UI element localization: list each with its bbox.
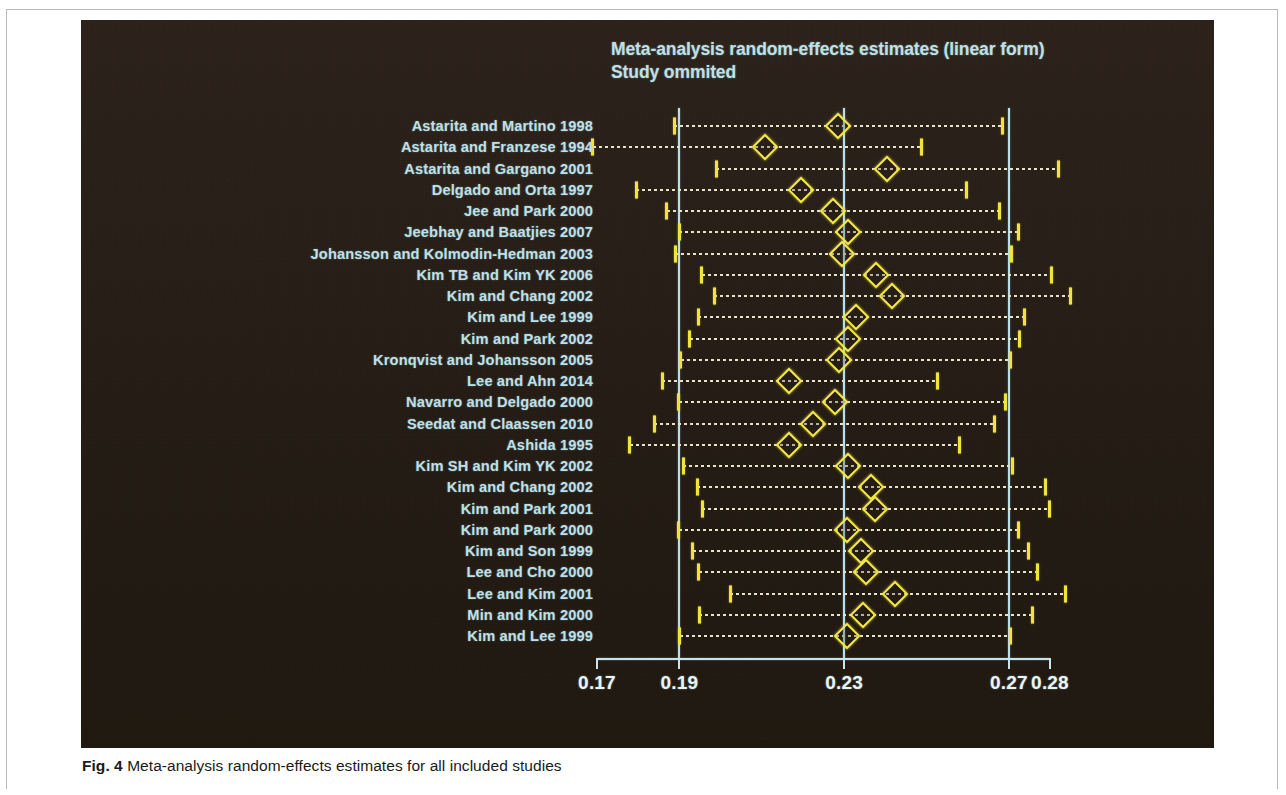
ci-upper-cap <box>1027 543 1030 560</box>
ci-upper-cap <box>993 415 996 432</box>
figure-caption-text: Meta-analysis random-effects estimates f… <box>127 757 561 774</box>
plot-title-line1: Meta-analysis random-effects estimates (… <box>611 39 1044 59</box>
ci-upper-cap <box>1057 160 1060 177</box>
ci-upper-cap <box>1069 288 1072 305</box>
page-border-top <box>6 9 1278 10</box>
estimate-marker <box>819 198 846 225</box>
ci-lower-cap <box>697 564 700 581</box>
ci-lower-cap <box>697 309 700 326</box>
figure-caption: Fig. 4 Meta-analysis random-effects esti… <box>82 757 562 775</box>
ci-upper-cap <box>1031 606 1034 623</box>
study-label: Kim SH and Kim YK 2002 <box>81 458 593 474</box>
ci-upper-cap <box>1009 628 1012 645</box>
ci-lower-cap <box>679 351 682 368</box>
study-label: Jeebhay and Baatjies 2007 <box>81 224 593 240</box>
x-axis-tick-label: 0.23 <box>825 672 863 694</box>
ci-lower-cap <box>715 160 718 177</box>
study-label: Delgado and Orta 1997 <box>81 182 593 198</box>
ci-lower-cap <box>661 373 664 390</box>
figure-page: Meta-analysis random-effects estimates (… <box>0 0 1286 795</box>
ci-lower-cap <box>677 521 680 538</box>
study-label: Lee and Ahn 2014 <box>81 373 593 389</box>
x-axis-tick <box>843 658 845 669</box>
study-label: Astarita and Franzese 1994 <box>81 139 593 155</box>
ci-lower-cap <box>682 458 685 475</box>
study-label: Kim TB and Kim YK 2006 <box>81 267 593 283</box>
ci-lower-cap <box>698 606 701 623</box>
ci-upper-cap <box>1009 351 1012 368</box>
reference-line <box>1008 108 1010 658</box>
ci-upper-cap <box>1036 564 1039 581</box>
study-label: Johansson and Kolmodin-Hedman 2003 <box>81 246 593 262</box>
estimate-marker <box>751 134 778 161</box>
study-label: Min and Kim 2000 <box>81 607 593 623</box>
x-axis-tick <box>596 658 598 669</box>
ci-upper-cap <box>1023 309 1026 326</box>
estimate-marker <box>788 176 815 203</box>
ci-upper-cap <box>1011 458 1014 475</box>
estimate-marker <box>775 431 802 458</box>
study-label: Kim and Park 2002 <box>81 331 593 347</box>
x-axis-tick-label: 0.28 <box>1031 672 1069 694</box>
study-label: Seedat and Claassen 2010 <box>81 416 593 432</box>
study-label: Ashida 1995 <box>81 437 593 453</box>
x-axis-tick-label: 0.17 <box>578 672 616 694</box>
x-axis-tick-label: 0.19 <box>660 672 698 694</box>
estimate-marker <box>800 410 827 437</box>
ci-upper-cap <box>1048 500 1051 517</box>
ci-upper-cap <box>1010 245 1013 262</box>
ci-upper-cap <box>1017 521 1020 538</box>
study-label: Kim and Lee 1999 <box>81 628 593 644</box>
estimate-marker <box>834 516 861 543</box>
ci-lower-cap <box>701 500 704 517</box>
estimate-marker <box>835 453 862 480</box>
estimate-marker <box>858 474 885 501</box>
ci-upper-cap <box>1004 394 1007 411</box>
estimate-marker <box>873 155 900 182</box>
estimate-marker <box>835 219 862 246</box>
x-axis-tick <box>678 658 680 669</box>
ci-upper-cap <box>1050 266 1053 283</box>
ci-lower-cap <box>653 415 656 432</box>
forest-plot-panel: Meta-analysis random-effects estimates (… <box>81 20 1214 748</box>
study-label: Kim and Son 1999 <box>81 543 593 559</box>
estimate-marker <box>834 623 861 650</box>
study-label: Kim and Chang 2002 <box>81 479 593 495</box>
study-label: Astarita and Martino 1998 <box>81 118 593 134</box>
study-label: Kim and Park 2001 <box>81 501 593 517</box>
ci-lower-cap <box>628 436 631 453</box>
study-label: Navarro and Delgado 2000 <box>81 394 593 410</box>
estimate-marker <box>853 559 880 586</box>
estimate-marker <box>829 240 856 267</box>
estimate-marker <box>861 495 888 522</box>
ci-lower-cap <box>688 330 691 347</box>
ci-lower-cap <box>674 245 677 262</box>
estimate-marker <box>881 580 908 607</box>
study-label: Astarita and Gargano 2001 <box>81 161 593 177</box>
estimate-marker <box>878 283 905 310</box>
ci-lower-cap <box>635 181 638 198</box>
page-border-left <box>6 9 7 789</box>
ci-lower-cap <box>713 288 716 305</box>
study-label: Lee and Kim 2001 <box>81 586 593 602</box>
study-label: Kronqvist and Johansson 2005 <box>81 352 593 368</box>
ci-upper-cap <box>936 373 939 390</box>
ci-upper-cap <box>1017 224 1020 241</box>
x-axis-line <box>597 658 1050 660</box>
ci-lower-cap <box>677 394 680 411</box>
study-label: Lee and Cho 2000 <box>81 564 593 580</box>
plot-title-line2: Study ommited <box>611 61 1044 84</box>
ci-lower-cap <box>673 118 676 135</box>
study-label: Kim and Chang 2002 <box>81 288 593 304</box>
ci-lower-cap <box>696 479 699 496</box>
ci-lower-cap <box>678 224 681 241</box>
ci-lower-cap <box>678 628 681 645</box>
plot-title: Meta-analysis random-effects estimates (… <box>611 38 1044 85</box>
ci-upper-cap <box>920 139 923 156</box>
study-label: Kim and Lee 1999 <box>81 309 593 325</box>
ci-upper-cap <box>998 203 1001 220</box>
ci-upper-cap <box>1044 479 1047 496</box>
ci-upper-cap <box>965 181 968 198</box>
x-axis-tick <box>1008 658 1010 669</box>
estimate-marker <box>825 113 852 140</box>
